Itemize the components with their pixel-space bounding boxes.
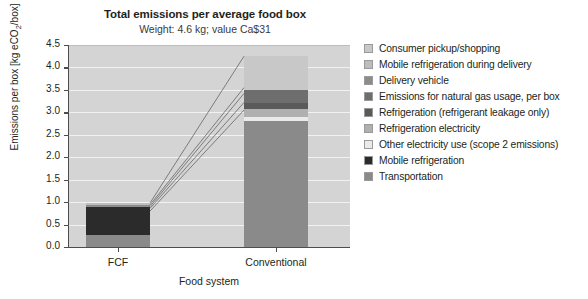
y-tick-mark: [64, 67, 68, 68]
legend-swatch-icon: [364, 108, 373, 117]
y-tick-mark: [64, 225, 68, 226]
legend-item[interactable]: Delivery vehicle: [364, 72, 586, 88]
y-axis-label: Emissions per box [kg eCO2/box]: [9, 0, 23, 177]
y-axis-label-tail: /box]: [9, 3, 20, 25]
legend-item[interactable]: Other electricity use (scope 2 emissions…: [364, 137, 586, 153]
legend-label: Other electricity use (scope 2 emissions…: [379, 139, 558, 150]
legend-swatch-icon: [364, 124, 373, 133]
legend-label: Emissions for natural gas usage, per box: [379, 91, 560, 102]
y-tick-mark: [64, 202, 68, 203]
legend-swatch-icon: [364, 60, 373, 69]
y-tick-label: 0.5: [0, 218, 60, 229]
y-tick-mark: [64, 45, 68, 46]
legend-item[interactable]: Transportation: [364, 169, 586, 185]
connector-lines: [68, 45, 350, 247]
legend-swatch-icon: [364, 44, 373, 53]
legend-label: Consumer pickup/shopping: [379, 43, 500, 54]
legend-label: Delivery vehicle: [379, 75, 449, 86]
legend-swatch-icon: [364, 140, 373, 149]
x-tick-mark: [118, 247, 119, 252]
x-tick-label-conventional: Conventional: [216, 256, 336, 268]
legend-swatch-icon: [364, 172, 373, 181]
chart-subtitle: Weight: 4.6 kg; value Ca$31: [60, 23, 350, 35]
legend-label: Refrigeration electricity: [379, 123, 480, 134]
y-tick-mark: [64, 135, 68, 136]
y-tick-label: 1.0: [0, 195, 60, 206]
legend-item[interactable]: Refrigeration (refrigerant leakage only): [364, 104, 586, 120]
legend-item[interactable]: Consumer pickup/shopping: [364, 40, 586, 56]
x-axis-label: Food system: [68, 275, 350, 287]
legend-label: Transportation: [379, 171, 443, 182]
legend-item[interactable]: Mobile refrigeration during delivery: [364, 56, 586, 72]
legend-item[interactable]: Refrigeration electricity: [364, 120, 586, 136]
connector-line: [150, 56, 244, 203]
connector-line: [150, 88, 244, 205]
chart-legend: Consumer pickup/shoppingMobile refrigera…: [364, 40, 586, 185]
legend-label: Mobile refrigeration: [379, 155, 464, 166]
y-axis-label-subscript: 2: [14, 25, 23, 29]
y-tick-mark: [64, 112, 68, 113]
connector-line: [150, 93, 244, 206]
legend-swatch-icon: [364, 156, 373, 165]
chart-title: Total emissions per average food box: [60, 8, 350, 20]
plot-area: [68, 45, 350, 247]
chart-container: Total emissions per average food box Wei…: [0, 0, 588, 299]
x-axis-line: [68, 247, 350, 248]
connector-line: [150, 110, 244, 211]
y-tick-mark: [64, 90, 68, 91]
y-axis-line: [68, 45, 69, 248]
legend-label: Mobile refrigeration during delivery: [379, 59, 532, 70]
legend-item[interactable]: Emissions for natural gas usage, per box: [364, 88, 586, 104]
y-tick-mark: [64, 247, 68, 248]
legend-item[interactable]: Mobile refrigeration: [364, 153, 586, 169]
y-axis-label-main: Emissions per box [kg eCO: [9, 29, 20, 150]
legend-swatch-icon: [364, 76, 373, 85]
connector-line: [150, 102, 244, 208]
plot-top-border: [68, 45, 350, 46]
legend-swatch-icon: [364, 92, 373, 101]
x-tick-mark: [276, 247, 277, 252]
x-tick-label-fcf: FCF: [58, 256, 178, 268]
y-tick-mark: [64, 180, 68, 181]
y-tick-label: 0.0: [0, 240, 60, 251]
legend-label: Refrigeration (refrigerant leakage only): [379, 107, 549, 118]
y-tick-mark: [64, 157, 68, 158]
